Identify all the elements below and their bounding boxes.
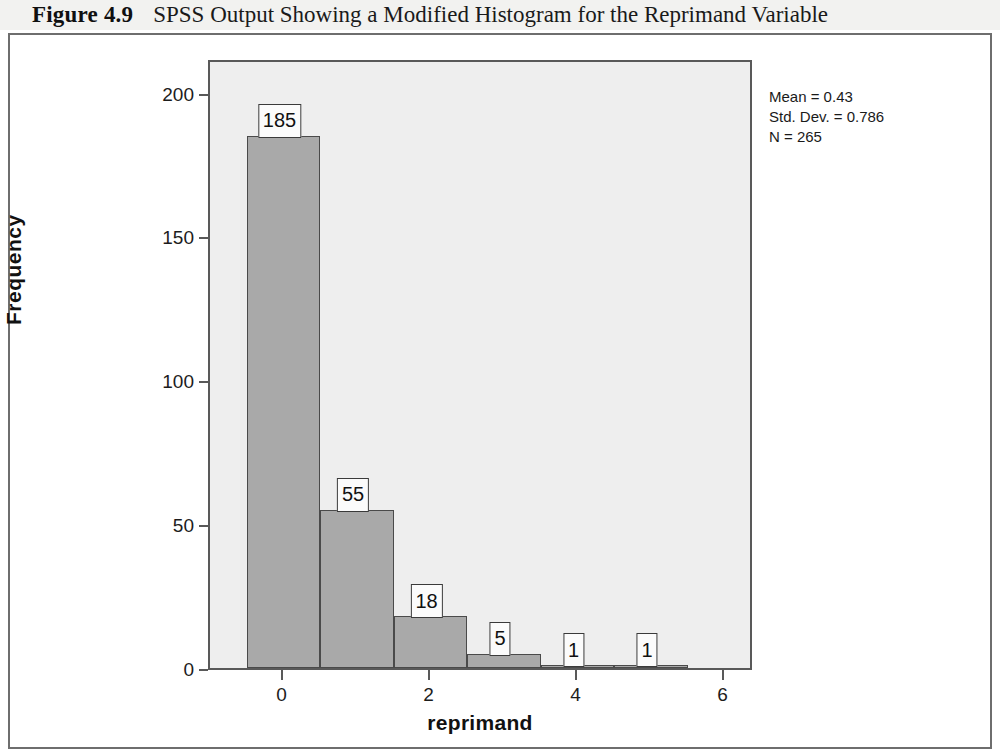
y-axis-tick-label: 0 (138, 659, 194, 681)
x-axis-tick-label: 2 (399, 684, 459, 706)
x-axis-title: reprimand (208, 711, 752, 735)
y-axis-tick (199, 237, 208, 239)
figure-caption: Figure 4.9 SPSS Output Showing a Modifie… (0, 0, 1000, 30)
stat-n: N = 265 (769, 127, 884, 147)
stat-std-dev: Std. Dev. = 0.786 (769, 107, 884, 127)
figure-frame: 1855518511 050100150200 0246 Frequency r… (8, 33, 992, 749)
figure-number: Figure 4.9 (32, 2, 133, 28)
x-axis-tick (722, 670, 724, 680)
x-axis-tick-label: 6 (693, 684, 753, 706)
histogram-bar (467, 654, 541, 668)
x-axis-tick-label: 0 (252, 684, 312, 706)
x-axis-tick (281, 670, 283, 680)
bar-value-label: 5 (489, 622, 510, 656)
bar-value-label: 55 (337, 478, 369, 512)
y-axis-tick (199, 525, 208, 527)
y-axis-tick-label: 150 (138, 227, 194, 249)
stat-mean: Mean = 0.43 (769, 87, 884, 107)
figure-title: SPSS Output Showing a Modified Histogram… (153, 2, 828, 28)
spss-histogram-chart: 1855518511 050100150200 0246 Frequency r… (10, 35, 994, 751)
y-axis-title: Frequency (2, 214, 26, 325)
y-axis-tick (199, 381, 208, 383)
x-axis-tick-label: 4 (546, 684, 606, 706)
histogram-bar (320, 510, 394, 668)
x-axis-tick (575, 670, 577, 680)
statistics-annotation: Mean = 0.43 Std. Dev. = 0.786 N = 265 (769, 87, 884, 147)
bar-value-label: 18 (410, 584, 442, 618)
histogram-bar (394, 616, 468, 668)
bar-value-label: 1 (563, 633, 584, 667)
bar-value-label: 185 (258, 104, 301, 138)
x-axis-tick (428, 670, 430, 680)
y-axis-tick (199, 94, 208, 96)
y-axis-tick-label: 100 (138, 371, 194, 393)
bar-value-label: 1 (637, 633, 658, 667)
y-axis-tick-label: 50 (138, 515, 194, 537)
y-axis-tick-label: 200 (138, 84, 194, 106)
y-axis-tick (199, 669, 208, 671)
plot-area: 1855518511 (208, 60, 752, 670)
histogram-bar (247, 136, 321, 668)
